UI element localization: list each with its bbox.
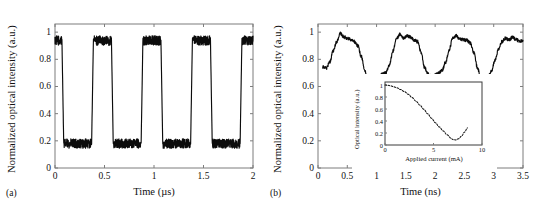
panel-a-y-tick-label: 0.4 — [31, 109, 51, 119]
panel-a-y-tick-label: 0.2 — [31, 136, 51, 146]
panel-b-x-tick-label: 1.5 — [400, 171, 412, 181]
inset-y-tick-label: 0.6 — [369, 106, 383, 113]
panel-b-x-tick-label: 2 — [433, 171, 438, 181]
panel-a-y-tick-label: 0.6 — [31, 81, 51, 91]
panel-a-x-tick-label: 1 — [152, 171, 157, 181]
inset-y-tick-label: 0.4 — [369, 118, 383, 125]
panel-b-y-tick-label: 0.8 — [294, 54, 314, 64]
panel-b-y-tick-label: 1 — [294, 27, 314, 37]
panel-b-x-tick-label: 0.5 — [341, 171, 353, 181]
panel-b-inset: Optical intensity (a.u.) Applied current… — [352, 74, 497, 170]
panel-b-y-tick-label: 0.6 — [294, 81, 314, 91]
panel-b-x-tick-label: 3.5 — [517, 171, 529, 181]
inset-y-tick-label: 0 — [369, 142, 383, 149]
panel-a-y-tick-label: 1 — [31, 27, 51, 37]
panel-b-y-tick-label: 0.2 — [294, 136, 314, 146]
panel-b-y-tick-label: 0.4 — [294, 109, 314, 119]
panel-b-y-tick-label: 0 — [294, 163, 314, 173]
inset-x-tick-label: 5 — [432, 146, 435, 153]
inset-frame — [385, 82, 482, 145]
panel-a-trace — [55, 36, 253, 148]
panel-a-y-tick-label: 0.8 — [31, 54, 51, 64]
panel-b-x-tick-label: 2.5 — [458, 171, 470, 181]
panel-a: Normalized optical intensity (a.u.) Time… — [0, 0, 266, 211]
panel-a-x-tick-label: 1.5 — [198, 171, 210, 181]
inset-x-tick-label: 0 — [383, 146, 386, 153]
panel-a-x-tick-label: 2 — [251, 171, 256, 181]
panel-a-y-tick-label: 0 — [31, 163, 51, 173]
inset-y-tick-label: 0.8 — [369, 94, 383, 101]
inset-y-tick-label: 1 — [369, 82, 383, 89]
figure-container: Normalized optical intensity (a.u.) Time… — [0, 0, 533, 211]
panel-a-x-tick-label: 0.5 — [99, 171, 111, 181]
panel-a-x-tick-label: 0 — [53, 171, 58, 181]
panel-b-x-tick-label: 0 — [316, 171, 321, 181]
panel-b-x-tick-label: 1 — [374, 171, 379, 181]
panel-b-x-tick-label: 3 — [491, 171, 496, 181]
inset-y-tick-label: 0.2 — [369, 130, 383, 137]
panel-b: Normalized optical intensity (a.u.) Time… — [266, 0, 533, 211]
inset-x-tick-label: 10 — [479, 146, 485, 153]
